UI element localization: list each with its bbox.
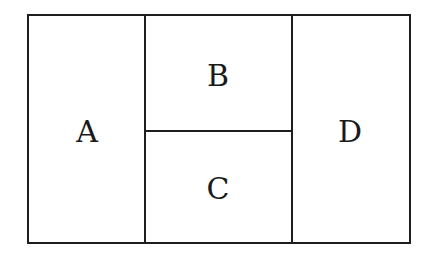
- divider-a-bc: [144, 14, 146, 244]
- region-a-label: A: [76, 117, 98, 147]
- divider-bc-d: [291, 14, 293, 244]
- divider-b-c: [144, 130, 293, 132]
- region-c-label: C: [207, 174, 230, 204]
- region-d-label: D: [338, 117, 362, 147]
- region-b-label: B: [207, 61, 229, 91]
